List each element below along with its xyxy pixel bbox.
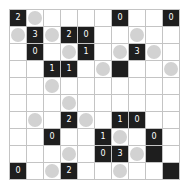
- lamp-icon[interactable]: [28, 11, 42, 25]
- grid-cell-r5-c1[interactable]: [27, 95, 44, 112]
- grid-cell-r0-c6: 0: [112, 10, 129, 27]
- grid-cell-r7-c7[interactable]: [129, 129, 146, 146]
- grid-cell-r0-c4[interactable]: [78, 10, 95, 27]
- grid-cell-r7-c3[interactable]: [61, 129, 78, 146]
- grid-cell-r6-c2[interactable]: [44, 112, 61, 129]
- grid-cell-r5-c8[interactable]: [146, 95, 163, 112]
- grid-cell-r9-c5[interactable]: [95, 163, 112, 180]
- grid-cell-r9-c1[interactable]: [27, 163, 44, 180]
- grid-cell-r7-c6[interactable]: [112, 129, 129, 146]
- lamp-icon[interactable]: [96, 62, 110, 76]
- grid-cell-r3-c9[interactable]: [163, 61, 180, 78]
- grid-cell-r6-c8[interactable]: [146, 112, 163, 129]
- grid-cell-r3-c3: 1: [61, 61, 78, 78]
- grid-cell-r1-c6[interactable]: [112, 27, 129, 44]
- grid-cell-r8-c3[interactable]: [61, 146, 78, 163]
- grid-cell-r6-c9[interactable]: [163, 112, 180, 129]
- grid-cell-r8-c2[interactable]: [44, 146, 61, 163]
- grid-cell-r7-c5: 1: [95, 129, 112, 146]
- grid-cell-r1-c9[interactable]: [163, 27, 180, 44]
- grid-cell-r5-c0[interactable]: [10, 95, 27, 112]
- grid-cell-r9-c7[interactable]: [129, 163, 146, 180]
- grid-cell-r0-c2[interactable]: [44, 10, 61, 27]
- grid-cell-r9-c2[interactable]: [44, 163, 61, 180]
- grid-cell-r9-c8[interactable]: [146, 163, 163, 180]
- grid-cell-r4-c1[interactable]: [27, 78, 44, 95]
- grid-cell-r1-c2[interactable]: [44, 27, 61, 44]
- grid-cell-r4-c5[interactable]: [95, 78, 112, 95]
- grid-cell-r6-c1[interactable]: [27, 112, 44, 129]
- grid-cell-r2-c5[interactable]: [95, 44, 112, 61]
- grid-cell-r8-c0[interactable]: [10, 146, 27, 163]
- grid-cell-r7-c2: 0: [44, 129, 61, 146]
- grid-cell-r6-c4[interactable]: [78, 112, 95, 129]
- grid-cell-r1-c0[interactable]: [10, 27, 27, 44]
- grid-cell-r4-c4[interactable]: [78, 78, 95, 95]
- grid-cell-r6-c0[interactable]: [10, 112, 27, 129]
- grid-cell-r9-c4[interactable]: [78, 163, 95, 180]
- lamp-icon[interactable]: [62, 45, 76, 59]
- grid-cell-r7-c4[interactable]: [78, 129, 95, 146]
- grid-cell-r5-c2[interactable]: [44, 95, 61, 112]
- lamp-icon[interactable]: [130, 28, 144, 42]
- grid-cell-r5-c9[interactable]: [163, 95, 180, 112]
- grid-cell-r2-c9[interactable]: [163, 44, 180, 61]
- grid-cell-r3-c1[interactable]: [27, 61, 44, 78]
- grid-cell-r8-c1[interactable]: [27, 146, 44, 163]
- grid-cell-r5-c5[interactable]: [95, 95, 112, 112]
- lamp-icon[interactable]: [28, 113, 42, 127]
- lamp-icon[interactable]: [62, 96, 76, 110]
- grid-cell-r4-c7[interactable]: [129, 78, 146, 95]
- grid-cell-r0-c3[interactable]: [61, 10, 78, 27]
- lamp-icon[interactable]: [130, 147, 144, 161]
- lamp-icon[interactable]: [45, 164, 59, 178]
- grid-cell-r3-c8[interactable]: [146, 61, 163, 78]
- grid-cell-r4-c0[interactable]: [10, 78, 27, 95]
- grid-cell-r0-c5[interactable]: [95, 10, 112, 27]
- grid-cell-r1-c7[interactable]: [129, 27, 146, 44]
- grid-cell-r2-c6[interactable]: [112, 44, 129, 61]
- grid-cell-r3-c4[interactable]: [78, 61, 95, 78]
- clue-number: 1: [49, 65, 54, 73]
- lamp-icon[interactable]: [11, 28, 25, 42]
- lamp-icon[interactable]: [79, 113, 93, 127]
- grid-cell-r3-c0[interactable]: [10, 61, 27, 78]
- lamp-icon[interactable]: [45, 79, 59, 93]
- lamp-icon[interactable]: [113, 130, 127, 144]
- grid-cell-r0-c7[interactable]: [129, 10, 146, 27]
- grid-cell-r1-c8[interactable]: [146, 27, 163, 44]
- grid-cell-r4-c9[interactable]: [163, 78, 180, 95]
- grid-cell-r2-c8[interactable]: [146, 44, 163, 61]
- grid-cell-r4-c2[interactable]: [44, 78, 61, 95]
- grid-cell-r7-c9[interactable]: [163, 129, 180, 146]
- lamp-icon[interactable]: [113, 164, 127, 178]
- grid-cell-r6-c5[interactable]: [95, 112, 112, 129]
- grid-cell-r8-c7[interactable]: [129, 146, 146, 163]
- lamp-icon[interactable]: [62, 147, 76, 161]
- grid-cell-r9-c6[interactable]: [112, 163, 129, 180]
- grid-cell-r8-c9[interactable]: [163, 146, 180, 163]
- grid-cell-r7-c1[interactable]: [27, 129, 44, 146]
- grid-cell-r0-c1[interactable]: [27, 10, 44, 27]
- lamp-icon[interactable]: [147, 45, 161, 59]
- grid-cell-r0-c8[interactable]: [146, 10, 163, 27]
- grid-cell-r2-c3[interactable]: [61, 44, 78, 61]
- lamp-icon[interactable]: [113, 45, 127, 59]
- lamp-icon[interactable]: [164, 62, 178, 76]
- grid-cell-r3-c5[interactable]: [95, 61, 112, 78]
- grid-cell-r2-c0[interactable]: [10, 44, 27, 61]
- grid-cell-r4-c8[interactable]: [146, 78, 163, 95]
- grid-cell-r2-c2[interactable]: [44, 44, 61, 61]
- grid-cell-r4-c3[interactable]: [61, 78, 78, 95]
- grid-cell-r5-c4[interactable]: [78, 95, 95, 112]
- grid-cell-r1-c5[interactable]: [95, 27, 112, 44]
- grid-cell-r8-c4[interactable]: [78, 146, 95, 163]
- clue-number: 2: [66, 31, 71, 39]
- grid-cell-r5-c3[interactable]: [61, 95, 78, 112]
- grid-cell-r5-c6[interactable]: [112, 95, 129, 112]
- lamp-icon[interactable]: [45, 28, 59, 42]
- grid-cell-r3-c7[interactable]: [129, 61, 146, 78]
- grid-cell-r5-c7[interactable]: [129, 95, 146, 112]
- grid-cell-r7-c0[interactable]: [10, 129, 27, 146]
- grid-cell-r4-c6[interactable]: [112, 78, 129, 95]
